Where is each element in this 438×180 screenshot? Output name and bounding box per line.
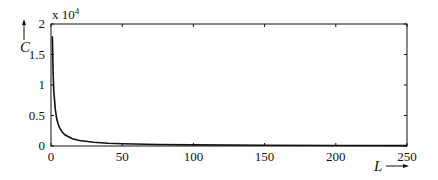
- x-tick-label: 250: [397, 149, 417, 164]
- y-tick-label: 0.5: [29, 108, 45, 123]
- x-tick-label: 100: [184, 149, 204, 164]
- y-tick-label: 1.5: [29, 47, 45, 62]
- y-tick-label: 1: [39, 77, 46, 92]
- plot-frame: [51, 24, 407, 146]
- x-axis-arrow-icon: [386, 164, 409, 168]
- y-multiplier-label: x 104: [52, 6, 80, 22]
- plot-area: 050100150200250 00.511.52: [29, 16, 417, 164]
- x-axis-label: L: [373, 158, 382, 174]
- chart: 050100150200250 00.511.52 x 104 C L: [0, 0, 438, 180]
- x-tick-label: 0: [48, 149, 55, 164]
- y-tick-label: 2: [39, 16, 46, 31]
- y-axis-arrow-icon: [22, 19, 26, 40]
- y-tick-label: 0: [39, 138, 46, 153]
- x-tick-label: 200: [326, 149, 346, 164]
- data-line: [52, 36, 407, 145]
- x-tick-label: 50: [116, 149, 129, 164]
- y-axis-label: C: [20, 39, 31, 55]
- x-tick-label: 150: [255, 149, 275, 164]
- y-axis-ticks: 00.511.52: [29, 16, 407, 153]
